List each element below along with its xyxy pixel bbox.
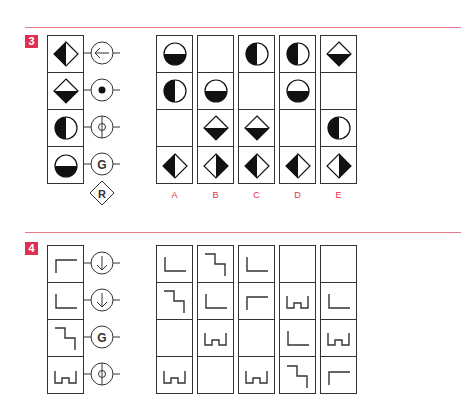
stem-cell-diamond-left-black-icon — [48, 36, 83, 73]
option-cell-circle-left-black-icon — [280, 36, 315, 73]
answer-option-col-5[interactable] — [320, 245, 357, 394]
option-cell-castle-icon — [157, 357, 192, 394]
operator-arrow-left-icon — [84, 40, 124, 66]
stem-cell-castle-icon — [48, 357, 83, 394]
option-label[interactable]: E — [320, 190, 357, 200]
operator-arrow-down-icon — [84, 250, 124, 276]
option-cell-circle-bottom-black-icon — [198, 73, 233, 110]
stem-cell-corner-bottom-left-icon — [48, 283, 83, 320]
operator-letter-icon: G — [84, 324, 124, 350]
option-label[interactable]: A — [156, 190, 193, 200]
option-cell-castle-icon — [280, 283, 315, 320]
option-cell-circle-bottom-black-icon — [157, 36, 192, 73]
section-rule-4 — [25, 232, 461, 233]
stem-cell-circle-bottom-black-icon — [48, 147, 83, 184]
option-cell-empty-icon — [157, 110, 192, 147]
option-cell-empty-icon — [157, 320, 192, 357]
option-cell-empty-icon — [280, 110, 315, 147]
option-cell-empty-icon — [198, 36, 233, 73]
operator-dot-icon — [84, 77, 124, 103]
option-cell-castle-icon — [198, 320, 233, 357]
option-cell-corner-top-left-icon — [321, 357, 356, 394]
option-cell-diamond-right-black-icon — [198, 147, 233, 184]
option-cell-step-down-icon — [280, 357, 315, 394]
stem-cell-step-down-icon — [48, 320, 83, 357]
stem-grid — [47, 245, 84, 394]
operator-arrow-down-icon — [84, 287, 124, 313]
operator-diamond-r-icon: R — [89, 180, 129, 206]
option-cell-empty-icon — [321, 246, 356, 283]
option-label[interactable]: B — [197, 190, 234, 200]
svg-text:R: R — [98, 188, 106, 200]
option-cell-castle-icon — [321, 320, 356, 357]
option-cell-corner-bottom-left-icon — [239, 246, 274, 283]
answer-option-col-3[interactable] — [238, 245, 275, 394]
option-label[interactable]: D — [279, 190, 316, 200]
problem-number-badge: 3 — [25, 35, 38, 48]
stem-cell-corner-top-left-icon — [48, 246, 83, 283]
option-cell-step-down-icon — [157, 283, 192, 320]
option-cell-corner-bottom-left-icon — [321, 283, 356, 320]
option-cell-circle-left-black-icon — [239, 36, 274, 73]
operator-phi-icon — [84, 361, 124, 387]
option-cell-diamond-left-black-icon — [239, 147, 274, 184]
answer-option-e[interactable] — [320, 35, 357, 184]
option-cell-diamond-left-black-icon — [157, 147, 192, 184]
answer-option-b[interactable] — [197, 35, 234, 184]
option-cell-corner-bottom-left-icon — [280, 320, 315, 357]
problem-number-badge: 4 — [25, 242, 38, 255]
option-cell-circle-bottom-black-icon — [280, 73, 315, 110]
option-cell-corner-bottom-left-icon — [198, 283, 233, 320]
option-cell-empty-icon — [239, 320, 274, 357]
option-cell-diamond-bottom-black-icon — [239, 110, 274, 147]
operator-phi-icon — [84, 114, 124, 140]
option-cell-corner-top-left-icon — [239, 283, 274, 320]
option-cell-diamond-bottom-black-icon — [321, 36, 356, 73]
answer-option-a[interactable] — [156, 35, 193, 184]
option-cell-circle-left-black-icon — [321, 110, 356, 147]
answer-option-col-1[interactable] — [156, 245, 193, 394]
svg-text:G: G — [97, 158, 106, 172]
option-cell-empty-icon — [198, 357, 233, 394]
option-cell-empty-icon — [280, 246, 315, 283]
option-label[interactable]: C — [238, 190, 275, 200]
option-cell-step-down-icon — [198, 246, 233, 283]
option-cell-empty-icon — [321, 73, 356, 110]
answer-option-col-2[interactable] — [197, 245, 234, 394]
stem-cell-circle-left-black-icon — [48, 110, 83, 147]
answer-option-c[interactable] — [238, 35, 275, 184]
stem-cell-diamond-bottom-black-icon — [48, 73, 83, 110]
option-cell-empty-icon — [239, 73, 274, 110]
option-cell-diamond-bottom-black-icon — [198, 110, 233, 147]
option-cell-diamond-right-black-icon — [321, 147, 356, 184]
section-rule-3 — [25, 27, 461, 28]
option-cell-corner-bottom-left-icon — [157, 246, 192, 283]
option-cell-circle-left-black-icon — [157, 73, 192, 110]
option-cell-diamond-left-black-icon — [280, 147, 315, 184]
option-cell-castle-icon — [239, 357, 274, 394]
answer-option-d[interactable] — [279, 35, 316, 184]
operator-letter-icon: G — [84, 151, 124, 177]
svg-text:G: G — [97, 331, 106, 345]
answer-option-col-4[interactable] — [279, 245, 316, 394]
stem-grid — [47, 35, 84, 184]
